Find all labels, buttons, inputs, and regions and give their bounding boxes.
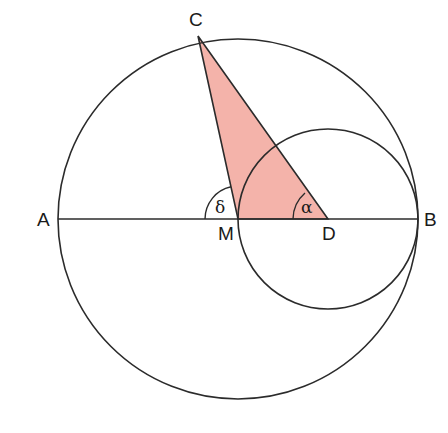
- label-delta: δ: [215, 197, 225, 217]
- label-alpha: α: [301, 197, 313, 217]
- label-A: A: [37, 209, 50, 230]
- geometry-diagram: C A B M D δ α: [0, 0, 448, 433]
- triangle-CMD: [198, 36, 328, 219]
- label-M: M: [218, 223, 234, 244]
- label-D: D: [322, 223, 336, 244]
- label-B: B: [424, 209, 437, 230]
- label-C: C: [189, 9, 203, 30]
